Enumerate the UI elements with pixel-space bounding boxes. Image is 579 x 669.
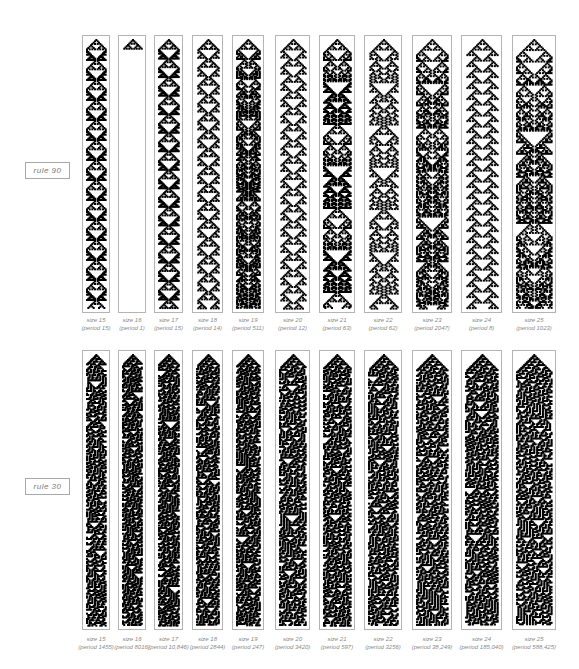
ca-panel: [82, 350, 110, 630]
ca-panel: [192, 350, 223, 630]
ca-panel: [461, 350, 502, 630]
rule-label: rule 30: [25, 478, 70, 495]
ca-panel: [512, 350, 556, 630]
ca-pattern: [276, 351, 309, 629]
ca-panel: [192, 35, 223, 313]
ca-panel: [118, 35, 146, 313]
size-label: size 25: [500, 635, 568, 643]
ca-pattern: [320, 36, 354, 312]
ca-pattern: [193, 36, 222, 312]
ca-panel: [82, 35, 110, 313]
ca-pattern: [413, 351, 451, 629]
ca-panel: [232, 35, 264, 313]
ca-panel: [275, 350, 310, 630]
ca-pattern: [193, 351, 222, 629]
panel-caption: size 25(period 1023): [500, 316, 568, 332]
ca-pattern: [155, 351, 182, 629]
ca-panel: [232, 350, 264, 630]
ca-pattern: [119, 36, 145, 312]
ca-pattern: [462, 36, 501, 312]
ca-panel: [412, 350, 452, 630]
ca-panel: [319, 350, 355, 630]
ca-pattern: [462, 351, 501, 629]
ca-pattern: [83, 351, 109, 629]
ca-panel: [412, 35, 452, 313]
ca-panel: [154, 35, 183, 313]
ca-pattern: [365, 351, 401, 629]
ca-panel: [154, 350, 183, 630]
rule-label: rule 90: [25, 162, 70, 179]
period-label: (period 588,425): [500, 643, 568, 651]
ca-pattern: [513, 36, 555, 312]
ca-panel: [461, 35, 502, 313]
ca-pattern: [83, 36, 109, 312]
ca-pattern: [233, 351, 263, 629]
ca-pattern: [320, 351, 354, 629]
ca-pattern: [513, 351, 555, 629]
ca-pattern: [276, 36, 309, 312]
ca-pattern: [233, 36, 263, 312]
ca-panel: [364, 350, 402, 630]
ca-pattern: [119, 351, 145, 629]
ca-panel: [319, 35, 355, 313]
panel-caption: size 25(period 588,425): [500, 635, 568, 651]
ca-pattern: [155, 36, 182, 312]
ca-pattern: [365, 36, 401, 312]
ca-panel: [364, 35, 402, 313]
ca-panel: [118, 350, 146, 630]
ca-panel: [275, 35, 310, 313]
size-label: size 25: [500, 316, 568, 324]
ca-panel: [512, 35, 556, 313]
ca-pattern: [413, 36, 451, 312]
period-label: (period 1023): [500, 324, 568, 332]
